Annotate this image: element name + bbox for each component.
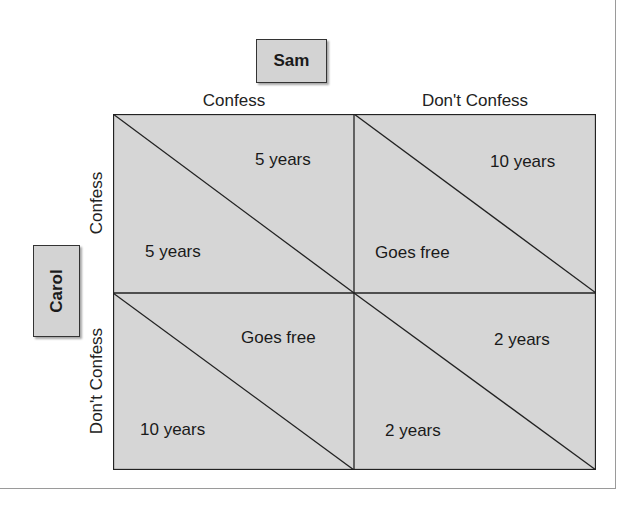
row-strategy-confess: Confess bbox=[87, 172, 107, 234]
frame-right-border bbox=[615, 0, 616, 489]
cell-cd-sam-payoff: 10 years bbox=[490, 152, 555, 172]
cell-dd-sam-payoff: 2 years bbox=[494, 330, 550, 350]
frame-bottom-border bbox=[0, 488, 616, 489]
row-player-name: Carol bbox=[47, 269, 67, 312]
column-player-box: Sam bbox=[256, 39, 327, 83]
cell-cc-sam-payoff: 5 years bbox=[255, 150, 311, 170]
row-strategy-dont-confess: Don't Confess bbox=[87, 328, 107, 434]
cell-dc-sam-payoff: Goes free bbox=[241, 328, 316, 348]
column-strategy-dont-confess: Don't Confess bbox=[422, 91, 528, 111]
cell-cd-carol-payoff: Goes free bbox=[375, 243, 450, 263]
column-strategy-confess: Confess bbox=[203, 91, 265, 111]
payoff-matrix: 5 years 5 years 10 years Goes free Goes … bbox=[113, 114, 596, 470]
cell-dd-carol-payoff: 2 years bbox=[385, 421, 441, 441]
cell-dc-carol-payoff: 10 years bbox=[140, 420, 205, 440]
row-player-box: Carol bbox=[33, 245, 80, 337]
cell-cc-carol-payoff: 5 years bbox=[145, 242, 201, 262]
column-player-name: Sam bbox=[274, 51, 310, 71]
